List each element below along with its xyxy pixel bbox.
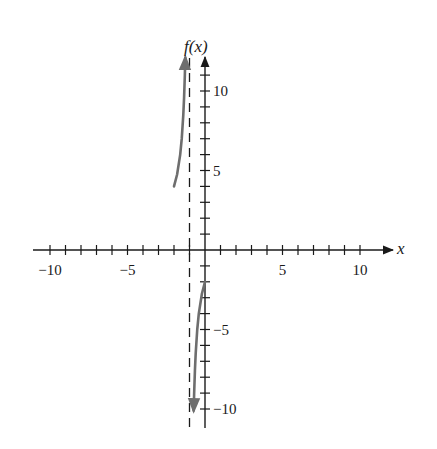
x-axis-tick-labels: −10−5510 (38, 262, 367, 278)
curve-right-branch (194, 282, 205, 411)
curve-left-branch (174, 58, 185, 187)
x-axis-label: x (396, 239, 405, 258)
y-tick-label: 5 (213, 163, 221, 179)
x-tick-label: −10 (38, 262, 61, 278)
function-graph: −10−5510 105−5−10 x f(x) (0, 0, 437, 449)
x-tick-label: 5 (279, 262, 287, 278)
x-tick-label: −5 (120, 262, 136, 278)
y-axis-label: f(x) (184, 37, 208, 56)
y-tick-label: 10 (213, 83, 228, 99)
y-tick-label: −5 (213, 322, 229, 338)
x-tick-label: 10 (353, 262, 368, 278)
y-tick-label: −10 (213, 401, 236, 417)
